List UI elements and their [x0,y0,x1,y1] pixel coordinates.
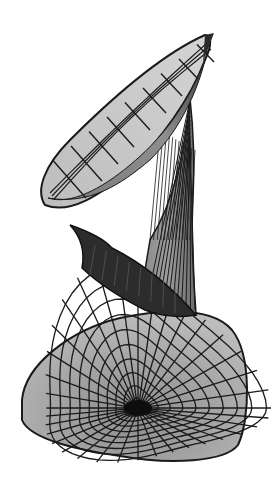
bowl-center-point [124,400,152,416]
surface-plot [0,0,271,477]
surface-figure [0,0,271,477]
